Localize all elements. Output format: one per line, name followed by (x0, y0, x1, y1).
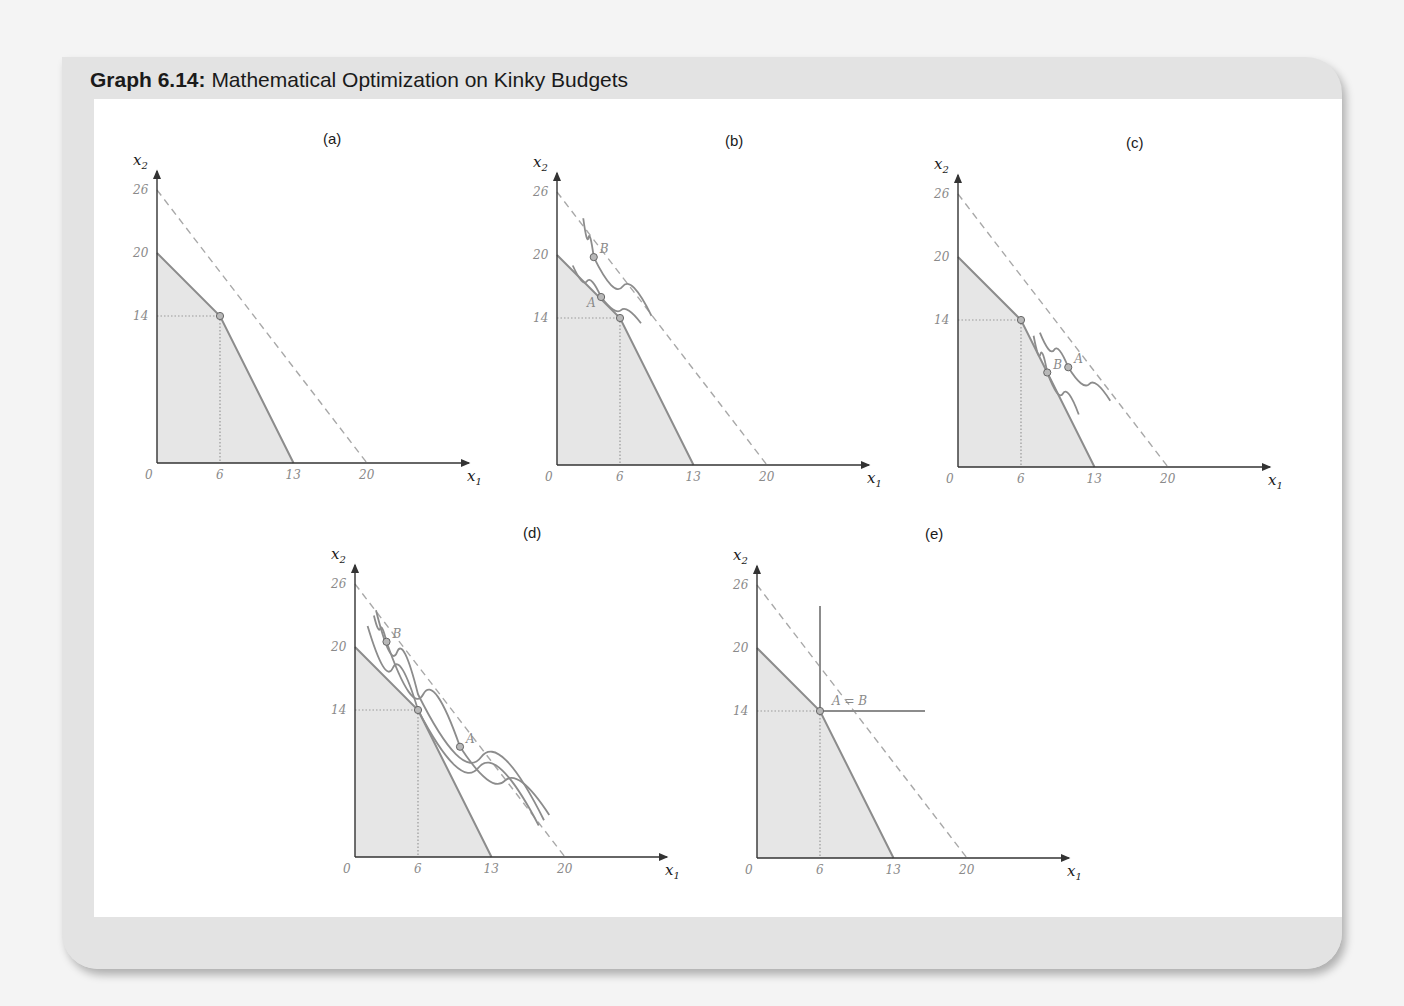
x-tick-20: 20 (556, 862, 573, 876)
x-tick-13: 13 (686, 470, 702, 484)
x-tick-6: 6 (616, 470, 624, 484)
x-tick-13: 13 (286, 468, 302, 482)
y-tick-26: 26 (532, 185, 549, 199)
y-tick-20: 20 (933, 250, 950, 264)
panel-d: AB061320262014x2x1(d) (330, 524, 680, 881)
x-axis-label: x1 (867, 469, 882, 489)
panel-b: AB061320262014x2x1(b) (532, 132, 882, 489)
x-tick-6: 6 (1017, 472, 1025, 486)
x-tick-20: 20 (958, 863, 975, 877)
x-tick-0: 0 (343, 862, 351, 876)
budget-set-fill (557, 255, 694, 465)
point-label: B (599, 242, 609, 256)
y-tick-26: 26 (330, 577, 347, 591)
x-tick-20: 20 (358, 468, 375, 482)
x-tick-13: 13 (886, 863, 902, 877)
x-tick-0: 0 (946, 472, 954, 486)
y-tick-20: 20 (532, 248, 549, 262)
x-tick-13: 13 (1087, 472, 1103, 486)
kink-point (1017, 316, 1024, 323)
point-label: B (392, 627, 402, 641)
x-axis-subscript: 1 (875, 478, 881, 489)
y-axis-label: x2 (331, 545, 346, 565)
point-label: A (1073, 352, 1083, 366)
kink-point (816, 707, 823, 714)
y-axis-subscript: 2 (540, 162, 547, 173)
x-axis-subscript: 1 (475, 476, 481, 487)
x-tick-0: 0 (545, 470, 553, 484)
y-tick-20: 20 (132, 246, 149, 260)
panel-e: A = B061320262014x2x1(e) (732, 525, 1082, 882)
x-axis-subscript: 1 (1075, 871, 1081, 882)
y-tick-26: 26 (732, 578, 749, 592)
y-axis-label: x2 (533, 153, 548, 173)
y-tick-20: 20 (330, 640, 347, 654)
x-axis-subscript: 1 (673, 870, 679, 881)
y-tick-14: 14 (133, 309, 148, 323)
budget-set-fill (757, 648, 894, 858)
y-axis-subscript: 2 (338, 554, 345, 565)
panel-label: (e) (925, 525, 943, 542)
x-tick-0: 0 (145, 468, 153, 482)
x-axis-label: x1 (665, 861, 680, 881)
point-label: A (586, 296, 596, 310)
y-axis-subscript: 2 (740, 555, 747, 566)
y-axis-label: x2 (934, 155, 949, 175)
x-tick-6: 6 (816, 863, 824, 877)
panel-c: AB061320262014x2x1(c) (933, 134, 1283, 491)
panel-label: (b) (725, 132, 743, 149)
bundle-point-b (590, 254, 597, 261)
panel-label: (a) (323, 130, 341, 147)
y-tick-14: 14 (733, 704, 748, 718)
kink-point (414, 706, 421, 713)
x-axis-label: x1 (1268, 471, 1283, 491)
x-tick-20: 20 (1159, 472, 1176, 486)
point-label: A = B (831, 694, 867, 708)
y-axis-subscript: 2 (941, 164, 948, 175)
x-tick-13: 13 (484, 862, 500, 876)
y-tick-20: 20 (732, 641, 749, 655)
x-tick-0: 0 (745, 863, 753, 877)
kink-point (616, 314, 623, 321)
budget-set-fill (355, 647, 492, 857)
point-label: B (1052, 358, 1062, 372)
y-tick-26: 26 (933, 187, 950, 201)
x-tick-20: 20 (758, 470, 775, 484)
bundle-point-a (1065, 364, 1072, 371)
x-axis-label: x1 (1067, 862, 1082, 882)
budget-set-fill (157, 253, 294, 463)
panel-label: (c) (1126, 134, 1144, 151)
y-axis-label: x2 (733, 546, 748, 566)
y-tick-26: 26 (132, 183, 149, 197)
x-tick-6: 6 (414, 862, 422, 876)
x-axis-label: x1 (467, 467, 482, 487)
panels-canvas: 061320262014x2x1(a) AB061320262014x2x1(b… (0, 0, 1404, 1006)
bundle-point-a (456, 743, 463, 750)
kink-point (216, 312, 223, 319)
panel-label: (d) (523, 524, 541, 541)
point-label: A (465, 732, 475, 746)
y-tick-14: 14 (533, 311, 548, 325)
bundle-point-a (598, 293, 605, 300)
bundle-point-b (1044, 369, 1051, 376)
x-axis-subscript: 1 (1276, 480, 1282, 491)
panel-a: 061320262014x2x1(a) (132, 130, 482, 487)
y-axis-subscript: 2 (140, 160, 147, 171)
bundle-point-b (383, 638, 390, 645)
y-tick-14: 14 (331, 703, 346, 717)
y-axis-label: x2 (133, 151, 148, 171)
x-tick-6: 6 (216, 468, 224, 482)
y-tick-14: 14 (934, 313, 949, 327)
